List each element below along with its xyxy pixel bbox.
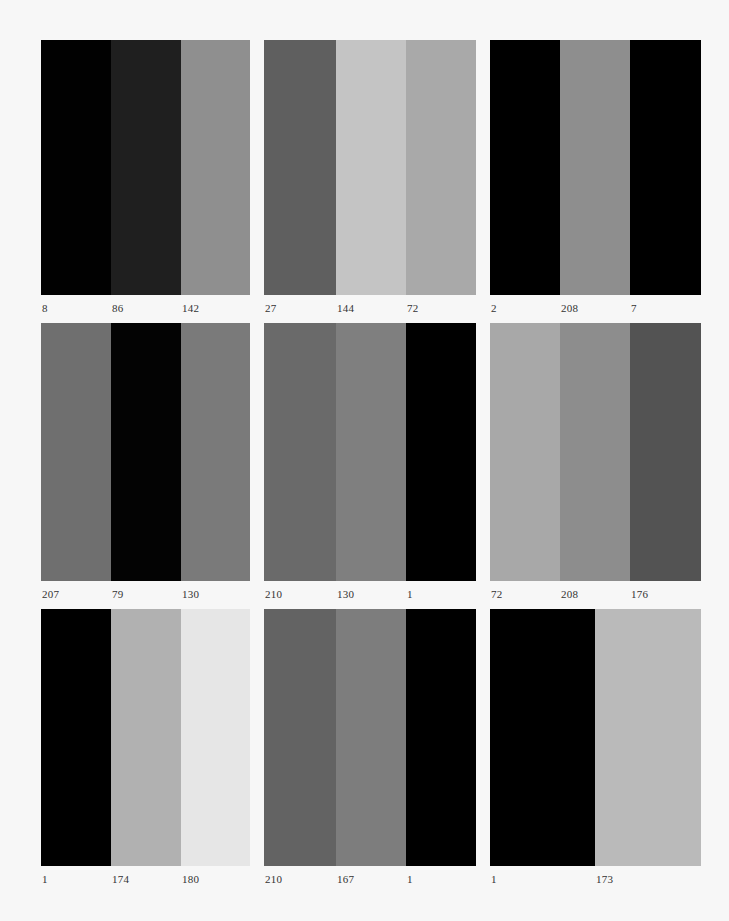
swatch-stripe: [41, 323, 111, 581]
swatch-value-label: 207: [42, 588, 59, 600]
swatch-value-label: 210: [265, 588, 282, 600]
swatch-value-label: 72: [407, 302, 418, 314]
swatch-value-label: 1: [491, 873, 497, 885]
swatch-stripe: [560, 323, 630, 581]
swatch-stripe: [490, 323, 560, 581]
swatch-stripe: [264, 609, 336, 866]
swatch-stripe: [41, 609, 111, 866]
swatch-stripe: [264, 40, 336, 295]
swatch-value-label: 210: [265, 873, 282, 885]
swatch-stripe: [181, 323, 250, 581]
swatch-value-label: 208: [561, 302, 578, 314]
swatch-stripe: [111, 609, 181, 866]
swatch-value-label: 27: [265, 302, 276, 314]
swatch-value-label: 130: [337, 588, 354, 600]
swatch-stripe: [406, 609, 476, 866]
swatch-panel: [490, 323, 701, 581]
swatch-stripe: [181, 609, 250, 866]
swatch-value-label: 1: [407, 588, 413, 600]
swatch-panel: [264, 40, 476, 295]
swatch-stripe: [630, 323, 701, 581]
swatch-stripe: [406, 40, 476, 295]
swatch-panel: [490, 609, 701, 866]
swatch-value-label: 86: [112, 302, 123, 314]
swatch-stripe: [111, 40, 181, 295]
swatch-stripe: [630, 40, 701, 295]
swatch-value-label: 142: [182, 302, 199, 314]
swatch-stripe: [560, 40, 630, 295]
swatch-panel: [41, 609, 250, 866]
swatch-panel: [490, 40, 701, 295]
swatch-panel: [264, 323, 476, 581]
swatch-value-label: 1: [407, 873, 413, 885]
swatch-value-label: 130: [182, 588, 199, 600]
swatch-stripe: [111, 323, 181, 581]
swatch-value-label: 208: [561, 588, 578, 600]
swatch-stripe: [181, 40, 250, 295]
swatch-value-label: 7: [631, 302, 637, 314]
swatch-panel: [41, 40, 250, 295]
swatch-stripe: [490, 40, 560, 295]
swatch-stripe: [336, 609, 406, 866]
swatch-stripe: [41, 40, 111, 295]
swatch-stripe: [336, 40, 406, 295]
swatch-value-label: 79: [112, 588, 123, 600]
swatch-stripe: [406, 323, 476, 581]
swatch-value-label: 72: [491, 588, 502, 600]
swatch-panel: [41, 323, 250, 581]
swatch-value-label: 8: [42, 302, 48, 314]
swatch-value-label: 176: [631, 588, 648, 600]
swatch-panel: [264, 609, 476, 866]
swatch-stripe: [336, 323, 406, 581]
swatch-value-label: 144: [337, 302, 354, 314]
swatch-value-label: 180: [182, 873, 199, 885]
swatch-stripe: [595, 609, 701, 866]
swatch-value-label: 173: [596, 873, 613, 885]
swatch-stripe: [264, 323, 336, 581]
swatch-value-label: 1: [42, 873, 48, 885]
swatch-value-label: 174: [112, 873, 129, 885]
swatch-value-label: 2: [491, 302, 497, 314]
swatch-stripe: [490, 609, 595, 866]
swatch-value-label: 167: [337, 873, 354, 885]
